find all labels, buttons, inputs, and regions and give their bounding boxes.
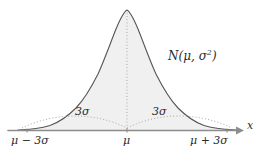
- x-tick-label-mu-plus-3sigma: μ + 3σ: [190, 135, 228, 146]
- distribution-comma: ,: [191, 49, 195, 63]
- normal-distribution-figure: N(μ, σ2) 3σ 3σ μ − 3σ μ μ + 3σ x: [0, 0, 262, 152]
- x-axis-label: x: [247, 120, 253, 131]
- right-sigma-span-label: 3σ: [152, 106, 167, 117]
- distribution-annotation-label: N(μ, σ2): [168, 49, 217, 62]
- distribution-symbol-n: N: [168, 49, 179, 63]
- bell-curve-plot: [0, 0, 262, 152]
- distribution-mu-symbol: μ: [183, 49, 191, 63]
- distribution-sigma-symbol: σ: [199, 49, 207, 63]
- distribution-close-paren: ): [212, 49, 217, 63]
- x-tick-label-mu: μ: [123, 135, 130, 146]
- x-tick-label-mu-minus-3sigma: μ − 3σ: [11, 135, 49, 146]
- x-axis-arrowhead: [236, 127, 244, 135]
- left-sigma-span-label: 3σ: [75, 106, 90, 117]
